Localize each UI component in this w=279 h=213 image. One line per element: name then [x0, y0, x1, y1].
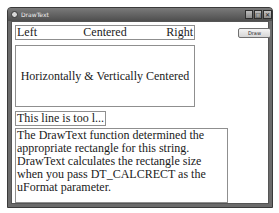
maximize-button[interactable]: □ — [254, 10, 262, 19]
right-label: Right — [166, 26, 193, 39]
window-title: DrawText — [21, 10, 49, 19]
draw-button[interactable]: Draw — [238, 28, 271, 38]
minimize-button[interactable]: _ — [245, 10, 253, 19]
alignment-row-box: Centered Left Right — [15, 25, 195, 40]
client-area: Centered Left Right Horizontally & Verti… — [11, 21, 269, 204]
drawtext-window: DrawText _ □ ✕ Centered Left Right Horiz… — [7, 7, 273, 208]
calcrect-paragraph-box: The DrawText function determined the app… — [15, 128, 228, 203]
centered-text: Horizontally & Vertically Centered — [21, 70, 190, 83]
close-button[interactable]: ✕ — [263, 10, 272, 19]
centered-text-box: Horizontally & Vertically Centered — [15, 45, 195, 107]
ellipsis-text-box: This line is too l... — [15, 111, 106, 126]
app-icon[interactable] — [11, 11, 18, 18]
title-bar[interactable]: DrawText _ □ ✕ — [8, 8, 272, 21]
left-label: Left — [17, 26, 37, 39]
